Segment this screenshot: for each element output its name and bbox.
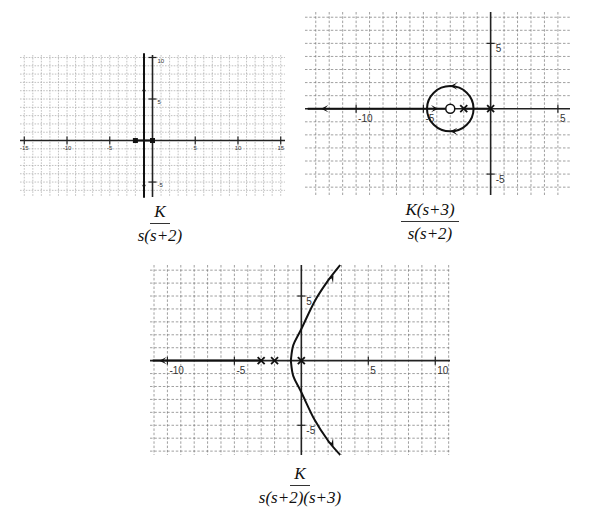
- x-tick-label: 10: [235, 145, 242, 151]
- caption-3-numerator: K: [290, 464, 309, 486]
- x-tick-label: 5: [370, 365, 376, 376]
- caption-2: K(s+3) s(s+2): [375, 200, 485, 244]
- y-tick-label: 5: [496, 43, 502, 54]
- root-locus-plot-1: -15-10-551015105-5: [20, 55, 285, 197]
- caption-1-numerator: K: [150, 202, 169, 224]
- x-tick-label: 10: [437, 365, 449, 376]
- x-tick-label: -10: [63, 145, 72, 151]
- caption-3: K s(s+2)(s+3): [220, 464, 380, 508]
- caption-1: K s(s+2): [110, 202, 210, 246]
- x-tick-label: -10: [169, 365, 184, 376]
- caption-2-numerator: K(s+3): [401, 200, 458, 222]
- x-tick-label: 15: [277, 145, 284, 151]
- root-locus-plot-3: -10-55105-5: [150, 265, 450, 455]
- caption-3-denominator: s(s+2)(s+3): [220, 486, 380, 508]
- caption-2-denominator: s(s+2): [375, 222, 485, 244]
- x-tick-label: 5: [560, 113, 566, 124]
- pole-marker: [150, 138, 155, 143]
- x-tick-label: 5: [194, 145, 198, 151]
- y-tick-label: -5: [306, 425, 315, 436]
- x-tick-label: -10: [358, 113, 373, 124]
- root-locus-plot-2: -10-555-5: [305, 12, 570, 195]
- x-tick-label: -15: [20, 145, 29, 151]
- x-tick-label: -5: [236, 365, 245, 376]
- pole-marker: [133, 138, 138, 143]
- y-tick-label: 10: [158, 58, 165, 64]
- caption-1-denominator: s(s+2): [110, 224, 210, 246]
- zero-marker: [446, 104, 455, 113]
- x-tick-label: -5: [107, 145, 113, 151]
- y-tick-label: -5: [158, 182, 164, 188]
- y-tick-label: -5: [496, 174, 505, 185]
